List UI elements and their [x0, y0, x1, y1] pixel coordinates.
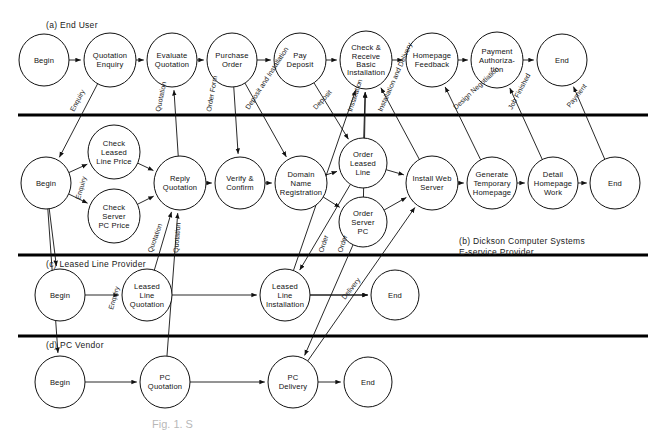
- edge-label-el12: Quotation: [146, 222, 164, 253]
- edge-a5-b7: [314, 83, 348, 139]
- node-label: Check &ReceiveBasicInstallation: [347, 43, 385, 77]
- swimlane-diagram: BeginQuotationEnquiryEvaluateQuotationPu…: [0, 0, 664, 431]
- edge-label-el11: Enquiry: [74, 175, 88, 201]
- node-d3[interactable]: PCDelivery: [268, 356, 318, 408]
- node-b2[interactable]: CheckLeasedLine Price: [88, 125, 140, 179]
- diagram-svg: BeginQuotationEnquiryEvaluateQuotationPu…: [0, 0, 664, 431]
- node-c3[interactable]: LeasedLineInstallation: [260, 269, 310, 321]
- edge-b8-b9: [384, 197, 406, 210]
- edge-label-el2: Quotation: [154, 81, 168, 112]
- node-b6[interactable]: DomainNameRegistration: [275, 156, 327, 210]
- node-label: End: [361, 378, 375, 387]
- node-d2[interactable]: PCQuotation: [140, 356, 190, 408]
- node-label: Begin: [36, 179, 56, 188]
- node-label: GenerateTemporaryHomepage: [473, 170, 511, 197]
- node-label: CheckServerPC Price: [98, 203, 129, 230]
- node-label: End: [608, 179, 622, 188]
- node-a3[interactable]: EvaluateQuotation: [147, 33, 197, 87]
- edge-label-el6: Installation: [346, 78, 363, 112]
- node-d4[interactable]: End: [344, 357, 392, 407]
- edge-b7-b9: [386, 170, 404, 175]
- node-a1[interactable]: Begin: [19, 34, 69, 86]
- node-c4[interactable]: End: [371, 270, 419, 320]
- node-b10[interactable]: GenerateTemporaryHomepage: [467, 157, 517, 209]
- node-b9[interactable]: Install WebServer: [406, 156, 458, 210]
- figure-caption: Fig. 1. S: [152, 418, 193, 430]
- edge-label-el16: Enquiry: [107, 285, 121, 311]
- edge-b4-a3: [174, 90, 178, 156]
- node-c2[interactable]: LeasedLineQuotation: [122, 269, 172, 321]
- node-a6[interactable]: Check &ReceiveBasicInstallation: [340, 31, 392, 89]
- edge-b3-b4: [137, 196, 153, 204]
- node-d1[interactable]: Begin: [35, 356, 85, 408]
- edge-b1-c1: [49, 209, 56, 266]
- node-label: End: [555, 56, 569, 65]
- node-label: EvaluateQuotation: [155, 51, 189, 69]
- node-b3[interactable]: CheckServerPC Price: [88, 189, 140, 243]
- lane-label-end-user: (a) End User: [46, 20, 98, 31]
- node-a7[interactable]: HomepageFeedback: [406, 33, 458, 87]
- edge-label-el13: Quotation: [172, 222, 183, 253]
- node-b12[interactable]: End: [590, 157, 640, 209]
- lane-label-pc-vendor: (d) PC Vendor: [46, 340, 104, 351]
- node-label: Verify &Confirm: [226, 174, 254, 192]
- node-label: End: [388, 291, 402, 300]
- node-c1[interactable]: Begin: [35, 269, 85, 321]
- node-b5[interactable]: Verify &Confirm: [215, 157, 265, 209]
- edge-b2-b4: [138, 163, 154, 170]
- lane-label-provider: (b) Dickson Computer Systems E-service P…: [459, 236, 585, 258]
- node-label: Begin: [50, 378, 70, 387]
- edge-label-el17: Delivery: [340, 276, 362, 301]
- node-b1[interactable]: Begin: [21, 157, 71, 209]
- node-b11[interactable]: DetailHomepageWork: [528, 157, 578, 209]
- node-a9[interactable]: End: [537, 34, 587, 86]
- node-label: HomepageFeedback: [413, 51, 451, 69]
- edge-label-el10: Payment: [565, 82, 588, 109]
- lane-label-leased-line-provider: (c) Leased Line Provider: [46, 259, 146, 270]
- node-label: QuotationEnquiry: [93, 51, 127, 69]
- node-label: Begin: [50, 291, 70, 300]
- node-b4[interactable]: ReplyQuotation: [154, 156, 206, 210]
- node-b7[interactable]: OrderLeasedLine: [339, 138, 387, 188]
- edge-a4-b5: [234, 87, 238, 154]
- edge-label-el3: Order Form: [205, 75, 218, 112]
- edge-label-el5: Deposit: [312, 89, 334, 112]
- edge-label-el15: Order: [336, 233, 348, 253]
- edge-b1-b2: [69, 164, 87, 172]
- node-label: Begin: [34, 56, 54, 65]
- node-a2[interactable]: QuotationEnquiry: [84, 33, 136, 87]
